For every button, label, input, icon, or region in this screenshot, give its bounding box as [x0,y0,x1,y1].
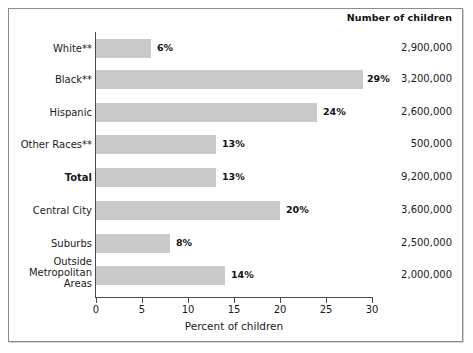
x-tick-4 [280,298,281,303]
category-label-central-city: Central City [10,205,92,216]
bar-value-suburbs: 8% [176,237,192,248]
x-tick-2 [188,298,189,303]
category-label-total: Total [10,172,92,183]
count-value-other-races: 500,000 [282,138,452,149]
category-label-white: White** [10,43,92,54]
bar-value-total: 13% [222,171,245,182]
x-tick-1 [142,298,143,303]
chart-row: Total 13% 9,200,000 [0,168,473,187]
category-label-black: Black** [10,74,92,85]
category-label-hispanic: Hispanic [10,107,92,118]
bar-suburbs [96,234,170,253]
plot-area: 0 5 10 15 20 25 30 Percent of children W… [0,0,473,353]
category-label-suburbs: Suburbs [10,238,92,249]
x-tick-label-1: 5 [127,304,157,315]
count-value-hispanic: 2,600,000 [282,106,452,117]
x-tick-label-4: 20 [265,304,295,315]
chart-row: Outside Metropolitan Areas 14% 2,000,000 [0,266,473,285]
bar-value-white: 6% [157,42,173,53]
bar-value-outside-metropolitan-areas: 14% [231,269,254,280]
x-axis-title: Percent of children [95,320,373,332]
chart-row: Other Races** 13% 500,000 [0,135,473,154]
x-tick-label-3: 15 [219,304,249,315]
x-tick-6 [372,298,373,303]
count-value-suburbs: 2,500,000 [282,237,452,248]
chart-row: Central City 20% 3,600,000 [0,201,473,220]
bar-outside-metropolitan-areas [96,266,225,285]
chart-row: Black** 29% 3,200,000 [0,70,473,89]
category-label-outside-metropolitan-areas: Outside Metropolitan Areas [10,256,92,289]
count-value-central-city: 3,600,000 [282,204,452,215]
chart-row: White** 6% 2,900,000 [0,39,473,58]
x-tick-label-5: 25 [311,304,341,315]
x-tick-0 [96,298,97,303]
x-tick-label-2: 10 [173,304,203,315]
x-tick-5 [326,298,327,303]
bar-white [96,39,151,58]
bar-central-city [96,201,280,220]
x-tick-label-0: 0 [81,304,111,315]
count-value-white: 2,900,000 [282,42,452,53]
chart-figure: Number of children 0 5 10 15 20 25 30 Pe… [0,0,473,353]
x-tick-3 [234,298,235,303]
count-value-outside-metropolitan-areas: 2,000,000 [282,269,452,280]
count-value-black: 3,200,000 [282,73,452,84]
x-tick-label-6: 30 [357,304,387,315]
chart-row: Hispanic 24% 2,600,000 [0,103,473,122]
category-label-other-races: Other Races** [10,139,92,150]
bar-other-races [96,135,216,154]
count-value-total: 9,200,000 [282,171,452,182]
chart-row: Suburbs 8% 2,500,000 [0,234,473,253]
bar-value-other-races: 13% [222,138,245,149]
bar-total [96,168,216,187]
